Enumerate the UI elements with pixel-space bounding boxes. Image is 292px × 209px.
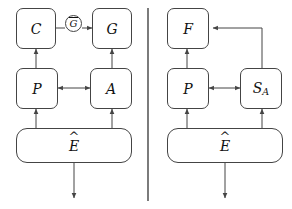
node-sa[interactable]: SA — [240, 68, 282, 109]
node-g[interactable]: G — [92, 8, 132, 49]
node-e-right[interactable]: E — [167, 128, 283, 163]
node-sa-subscript: A — [262, 87, 269, 97]
node-p-left[interactable]: P — [16, 68, 58, 109]
node-f[interactable]: F — [167, 8, 209, 49]
node-gbar[interactable]: G — [65, 15, 82, 32]
node-e-left[interactable]: E — [16, 128, 132, 163]
node-a[interactable]: A — [90, 68, 132, 109]
node-c[interactable]: C — [16, 8, 56, 49]
node-e-left-label: E — [68, 139, 80, 153]
node-p-left-label: P — [32, 82, 41, 96]
node-sa-base: S — [253, 80, 263, 96]
node-gbar-label: G — [69, 19, 79, 29]
edge-sa-to-f — [213, 28, 262, 68]
node-c-label: C — [31, 22, 42, 36]
node-e-right-label: E — [219, 139, 231, 153]
node-p-right-label: P — [183, 82, 192, 96]
node-g-label: G — [106, 22, 117, 36]
node-p-right[interactable]: P — [167, 68, 209, 109]
node-f-label: F — [183, 22, 193, 36]
node-a-label: A — [106, 82, 116, 96]
diagram-root: C G G P A E F P SA E — [0, 0, 292, 209]
node-sa-label: SA — [253, 81, 269, 96]
